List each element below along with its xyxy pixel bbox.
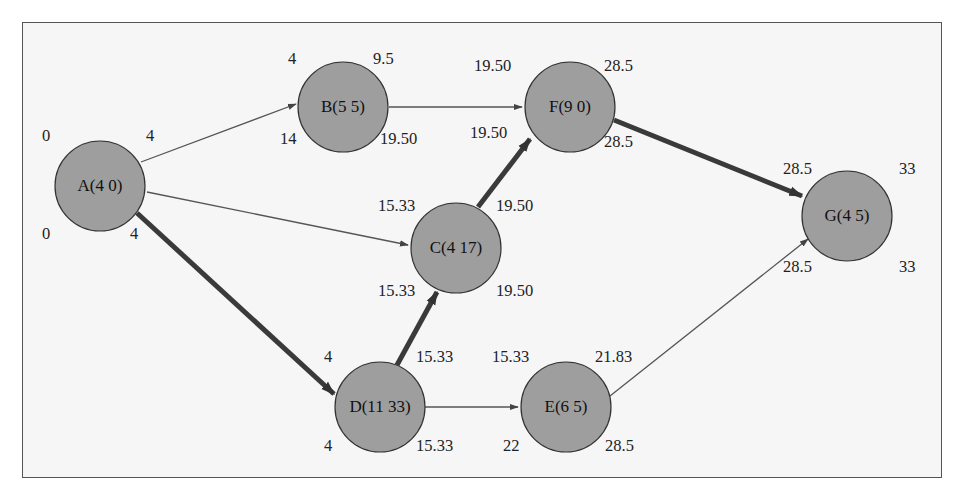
node-a-early-finish: 4 — [146, 126, 154, 145]
node-f-early-start: 19.50 — [474, 56, 511, 75]
node-b-label: B(5 5) — [321, 97, 365, 116]
node-c-late-start: 15.33 — [378, 281, 415, 300]
edge-a-d-critical — [137, 213, 334, 394]
node-d-early-start: 4 — [324, 347, 332, 366]
node-c: C(4 17) 15.33 19.50 15.33 19.50 — [378, 196, 533, 300]
node-g-label: G(4 5) — [825, 206, 870, 225]
node-c-label: C(4 17) — [430, 238, 482, 257]
node-e: E(6 5) 15.33 21.83 22 28.5 — [492, 347, 634, 455]
node-d: D(11 33) 4 15.33 4 15.33 — [324, 347, 453, 455]
node-f-label: F(9 0) — [549, 97, 591, 116]
node-g-early-finish: 33 — [899, 159, 916, 178]
node-c-late-finish: 19.50 — [496, 281, 533, 300]
node-e-late-finish: 28.5 — [605, 436, 634, 455]
node-d-late-finish: 15.33 — [416, 436, 453, 455]
node-f-late-finish: 28.5 — [604, 132, 633, 151]
node-f-late-start: 19.50 — [470, 123, 507, 142]
node-g: G(4 5) 28.5 33 28.5 33 — [783, 159, 916, 276]
node-c-early-start: 15.33 — [378, 196, 415, 215]
edge-f-g-critical — [614, 120, 802, 196]
node-a-late-finish: 4 — [130, 224, 138, 243]
node-f-early-finish: 28.5 — [604, 56, 633, 75]
node-c-early-finish: 19.50 — [496, 196, 533, 215]
node-b-early-start: 4 — [288, 49, 296, 68]
node-e-late-start: 22 — [503, 436, 520, 455]
node-f: F(9 0) 19.50 28.5 19.50 28.5 — [470, 56, 633, 152]
node-e-early-start: 15.33 — [492, 347, 529, 366]
edge-a-c — [147, 192, 408, 245]
node-g-late-start: 28.5 — [783, 257, 812, 276]
node-a-early-start: 0 — [42, 126, 50, 145]
node-b-late-finish: 19.50 — [380, 129, 417, 148]
node-g-early-start: 28.5 — [783, 159, 812, 178]
edge-a-b — [141, 104, 296, 162]
node-g-late-finish: 33 — [899, 257, 916, 276]
node-d-label: D(11 33) — [349, 397, 410, 416]
node-d-early-finish: 15.33 — [416, 347, 453, 366]
node-d-late-start: 4 — [324, 436, 332, 455]
node-e-early-finish: 21.83 — [595, 347, 632, 366]
node-b-late-start: 14 — [280, 129, 297, 148]
network-graph: A(4 0) 0 4 0 4 B(5 5) 4 9.5 14 19.50 F(9… — [0, 0, 963, 494]
node-a-label: A(4 0) — [78, 176, 123, 195]
node-a-late-start: 0 — [42, 224, 50, 243]
edge-e-g — [610, 239, 808, 396]
node-a: A(4 0) 0 4 0 4 — [42, 126, 154, 243]
node-b: B(5 5) 4 9.5 14 19.50 — [280, 49, 417, 152]
node-b-early-finish: 9.5 — [373, 49, 394, 68]
node-e-label: E(6 5) — [545, 397, 588, 416]
